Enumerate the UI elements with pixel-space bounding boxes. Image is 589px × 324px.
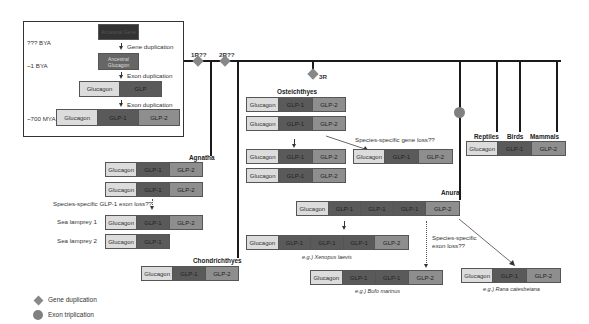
step-exon-duplication-1: Exon duplication — [127, 72, 172, 79]
exon-glucagon: Glucagon — [247, 98, 279, 111]
exon-glp1: GLP-1 — [279, 98, 312, 111]
exon-glucagon: Glucagon — [354, 150, 385, 163]
clade-reptiles: Reptiles — [474, 133, 499, 140]
exon-glp2: GLP-2 — [170, 163, 202, 176]
exon-glp1: GLP-1 — [343, 271, 377, 284]
exon-triplication-marker — [454, 107, 465, 118]
exon-glp: GLP — [120, 82, 161, 96]
clade-osteichthyes: Osteichthyes — [277, 88, 317, 95]
branch-agnatha — [210, 61, 212, 156]
exon-glp2: GLP-2 — [426, 202, 459, 215]
clade-mammals: Mammals — [530, 133, 559, 140]
branch-birds — [519, 61, 521, 132]
exon-glp2: GLP-2 — [375, 236, 408, 249]
tree-trunk — [184, 60, 561, 62]
exon-glucagon: Glucagon — [467, 142, 498, 155]
gene-xenopus: Glucagon GLP-1 GLP-1 GLP-1 GLP-2 — [246, 235, 409, 250]
gene-sea-lamprey-2: Glucagon GLP-1 — [105, 234, 170, 249]
arrow-down — [294, 139, 295, 145]
agnatha-loss-note: Species-specific GLP-1 exon loss?? — [53, 200, 152, 207]
gene-chondrichthyes: Glucagon GLP-1 GLP-2 — [141, 266, 239, 281]
exon-glp2: GLP-2 — [313, 169, 345, 182]
gene-rana: Glucagon GLP-1 GLP-2 — [461, 268, 561, 283]
exon-glp1: GLP-1 — [344, 236, 376, 249]
gene-osteichthyes-post-2: Glucagon GLP-1 GLP-2 — [246, 168, 346, 183]
gene-bufo: Glucagon GLP-1 GLP-1 GLP-2 — [310, 270, 443, 285]
time-label-unknown: ??? BYA — [27, 39, 51, 46]
exon-glucagon: Glucagon — [106, 235, 137, 248]
legend-circle-icon — [33, 310, 43, 320]
exon-glp1: GLP-1 — [376, 271, 409, 284]
exon-glp1: GLP-1 — [279, 169, 312, 182]
exon-glp2: GLP-2 — [313, 117, 345, 130]
event-3r: 3R — [319, 73, 327, 80]
arrow-down — [344, 221, 345, 227]
rana-arrow — [458, 218, 518, 270]
exon-glp1: GLP-1 — [137, 183, 169, 196]
exon-glp1: GLP-1 — [137, 216, 169, 229]
exon-glucagon: Glucagon — [106, 183, 137, 196]
gene-proglucagon-inset: Glucagon GLP-1 GLP-2 — [56, 109, 180, 126]
exon-glucagon: Glucagon — [142, 267, 173, 280]
exon-glp2: GLP-2 — [170, 183, 202, 196]
exon-glp1: GLP-1 — [98, 110, 138, 125]
exon-glp1: GLP-1 — [498, 142, 531, 155]
exon-glucagon: Glucagon — [106, 163, 137, 176]
gene-osteichthyes-pre-2: Glucagon GLP-1 GLP-2 — [246, 116, 346, 131]
sea-lamprey-2-label: Sea lamprey 2 — [57, 237, 97, 244]
arrow-down — [121, 43, 122, 47]
exon-glucagon: Glucagon — [297, 202, 329, 215]
bufo-caption: e.g.) Bufo marinus — [355, 288, 400, 294]
exon-glucagon: Glucagon — [247, 150, 279, 163]
exon-glp2: GLP-2 — [139, 110, 179, 125]
exon-glucagon: Glucagon — [106, 216, 137, 229]
exon-glp1: GLP-1 — [311, 236, 344, 249]
exon-glp2: GLP-2 — [313, 150, 345, 163]
clade-agnatha: Agnatha — [189, 154, 215, 161]
sea-lamprey-1-label: Sea lamprey 1 — [57, 218, 97, 225]
arrow-down — [121, 100, 122, 104]
gene-duplication-marker-3r — [307, 68, 318, 79]
exon-glucagon: Glucagon — [247, 117, 279, 130]
exon-glp1: GLP-1 — [279, 117, 312, 130]
xenopus-caption: e.g.) Xenopus laevis — [302, 254, 352, 260]
ancestral-gene-box: Ancestral Gene — [98, 24, 139, 40]
exon-glucagon: Glucagon — [311, 271, 343, 284]
exon-glp2: GLP-2 — [527, 269, 560, 282]
exon-glp2: GLP-2 — [313, 98, 345, 111]
exon-glp1: GLP-1 — [137, 235, 169, 248]
gene-anura-ancestral: Glucagon GLP-1 GLP-1 GLP-1 GLP-2 — [296, 201, 460, 216]
exon-glp2: GLP-2 — [419, 150, 452, 163]
exon-glucagon: Glucagon — [462, 269, 493, 282]
gene-amniotes: Glucagon GLP-1 GLP-2 — [466, 141, 566, 156]
dotted-arrow-down — [152, 199, 153, 207]
exon-glp1: GLP-1 — [493, 269, 526, 282]
exon-glucagon: Glucagon — [80, 82, 120, 96]
step-gene-duplication: Gene duplication — [127, 43, 173, 50]
exon-glp1: GLP-1 — [173, 267, 205, 280]
dotted-arrow-down — [426, 221, 427, 265]
legend-exon-triplication: Exon triplication — [48, 311, 94, 318]
exon-glp1: GLP-1 — [279, 236, 312, 249]
exon-glp1: GLP-1 — [329, 202, 362, 215]
exon-glucagon: Glucagon — [247, 169, 279, 182]
gene-osteichthyes-pre-1: Glucagon GLP-1 GLP-2 — [246, 97, 346, 112]
exon-glp1: GLP-1 — [385, 150, 418, 163]
gene-glucagon-glp: Glucagon GLP — [79, 81, 162, 97]
gene-sea-lamprey-1: Glucagon GLP-1 GLP-2 — [105, 215, 203, 230]
branch-reptiles — [496, 61, 498, 132]
exon-glp2: GLP-2 — [532, 142, 565, 155]
exon-glp2: GLP-2 — [206, 267, 238, 280]
gene-agnatha-1: Glucagon GLP-1 GLP-2 — [105, 162, 203, 177]
gene-osteichthyes-post-1: Glucagon GLP-1 GLP-2 — [246, 149, 346, 164]
time-label-700mya: ~700 MYA — [27, 115, 56, 122]
exon-glucagon: Glucagon — [57, 110, 98, 125]
branch-chondrichthyes — [237, 61, 239, 258]
clade-birds: Birds — [507, 133, 523, 140]
exon-glp2: GLP-2 — [409, 271, 442, 284]
ancestral-glucagon-box: Ancestral Glucagon — [98, 53, 139, 70]
gene-species-specific-loss: Glucagon GLP-1 GLP-2 — [353, 149, 453, 164]
legend-gene-duplication: Gene duplication — [48, 296, 97, 303]
arrow-down — [121, 72, 122, 76]
exon-glp1: GLP-1 — [279, 150, 312, 163]
